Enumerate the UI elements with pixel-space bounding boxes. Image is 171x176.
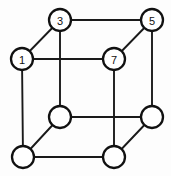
graph-node-label-n7: 7 <box>111 54 117 66</box>
graph-node-circle-n2[interactable] <box>12 146 34 168</box>
graph-node-label-n1: 1 <box>19 54 25 66</box>
graph-edge-n2-n1 <box>22 59 23 157</box>
graph-node-n7[interactable]: 7 <box>103 48 125 70</box>
graph-node-circle-n4[interactable] <box>49 106 71 128</box>
graph-node-n2[interactable] <box>12 146 34 168</box>
cube-graph-diagram: 1357 <box>0 0 171 176</box>
graph-node-n8[interactable] <box>103 146 125 168</box>
graph-node-n3[interactable]: 3 <box>49 9 71 31</box>
edge-layer <box>22 20 152 157</box>
graph-node-n1[interactable]: 1 <box>11 48 33 70</box>
graph-node-n5[interactable]: 5 <box>141 9 163 31</box>
graph-canvas: 1357 <box>0 0 171 176</box>
graph-node-circle-n6[interactable] <box>141 106 163 128</box>
graph-node-label-n3: 3 <box>57 15 63 27</box>
graph-node-n6[interactable] <box>141 106 163 128</box>
graph-node-circle-n8[interactable] <box>103 146 125 168</box>
graph-node-label-n5: 5 <box>149 15 155 27</box>
graph-node-n4[interactable] <box>49 106 71 128</box>
